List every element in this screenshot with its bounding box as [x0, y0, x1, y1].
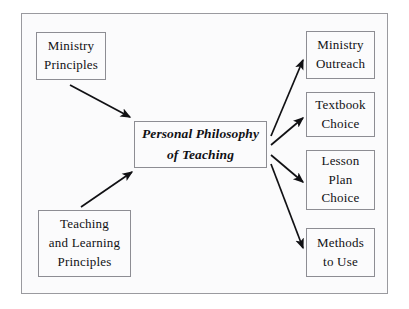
node-teaching-and-learning-principles[interactable]: Teaching and Learning Principles: [38, 210, 131, 277]
node-label: Methods to Use: [317, 234, 364, 272]
node-label: Lesson Plan Choice: [321, 152, 359, 209]
node-label: Teaching and Learning Principles: [49, 215, 120, 272]
node-label: Textbook Choice: [315, 96, 366, 134]
node-ministry-principles[interactable]: Ministry Principles: [36, 32, 106, 80]
node-ministry-outreach[interactable]: Ministry Outreach: [306, 31, 375, 79]
node-label: Ministry Principles: [44, 37, 98, 75]
node-label: Personal Philosophy of Teaching: [142, 124, 259, 165]
node-methods-to-use[interactable]: Methods to Use: [306, 228, 375, 277]
node-lesson-plan-choice[interactable]: Lesson Plan Choice: [306, 150, 375, 210]
node-label: Ministry Outreach: [316, 36, 365, 74]
node-personal-philosophy-of-teaching[interactable]: Personal Philosophy of Teaching: [134, 121, 267, 168]
node-textbook-choice[interactable]: Textbook Choice: [306, 92, 375, 137]
diagram-canvas: Ministry Principles Teaching and Learnin…: [0, 0, 409, 309]
